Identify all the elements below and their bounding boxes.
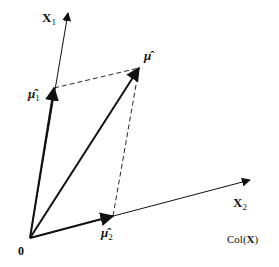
mu-hat-label: μ̂ xyxy=(143,48,154,63)
mu-hat-1-label: μ̂1 xyxy=(27,86,40,103)
vector-projection-diagram: X1 X2 μ̂ μ̂1 μ̂2 0 Col(X) xyxy=(0,0,279,267)
dashed-line-mu2-to-mu xyxy=(113,68,139,216)
dashed-line-mu1-to-mu xyxy=(54,68,139,88)
vector-mu-hat xyxy=(30,68,139,238)
vector-mu-hat-1 xyxy=(30,88,54,238)
axis-x1-label: X1 xyxy=(42,10,56,27)
origin-label: 0 xyxy=(18,244,24,258)
mu-hat-2-label: μ̂2 xyxy=(100,225,113,242)
axis-x2-label: X2 xyxy=(233,195,247,212)
column-space-label: Col(X) xyxy=(227,233,259,246)
